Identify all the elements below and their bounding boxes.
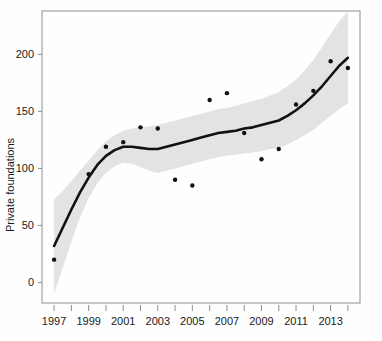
data-point (225, 91, 229, 95)
x-axis-tick-label: 2009 (249, 315, 273, 327)
x-axis-tick-label: 2001 (111, 315, 135, 327)
data-point (86, 172, 90, 176)
x-axis-tick-label: 1999 (76, 315, 100, 327)
x-axis-tick-label: 2003 (146, 315, 170, 327)
data-point (138, 125, 142, 129)
y-axis-tick-label: 100 (16, 162, 34, 174)
data-point (207, 98, 211, 102)
data-point (190, 183, 194, 187)
data-point (294, 102, 298, 106)
scatter-plot-with-loess-fit: 050100150200 199719992001200320052007200… (0, 0, 382, 341)
data-point (173, 178, 177, 182)
x-axis-tick-label: 2005 (180, 315, 204, 327)
y-axis-tick-label: 50 (22, 219, 34, 231)
data-point (346, 66, 350, 70)
data-point (121, 140, 125, 144)
data-point (328, 59, 332, 63)
data-point (259, 157, 263, 161)
x-axis-tick-label: 2013 (318, 315, 342, 327)
x-axis-tick-label: 2007 (215, 315, 239, 327)
y-axis-tick-label: 200 (16, 48, 34, 60)
data-point (104, 145, 108, 149)
y-axis-title: Private foundations (4, 137, 16, 232)
data-point (156, 126, 160, 130)
data-point (52, 257, 56, 261)
chart-container: 050100150200 199719992001200320052007200… (0, 0, 382, 341)
x-axis-tick-label: 1997 (42, 315, 66, 327)
y-axis-tick-label: 150 (16, 105, 34, 117)
data-point (277, 147, 281, 151)
data-point (311, 89, 315, 93)
data-point (242, 131, 246, 135)
y-axis-tick-label: 0 (28, 276, 34, 288)
x-axis-tick-label: 2011 (284, 315, 308, 327)
